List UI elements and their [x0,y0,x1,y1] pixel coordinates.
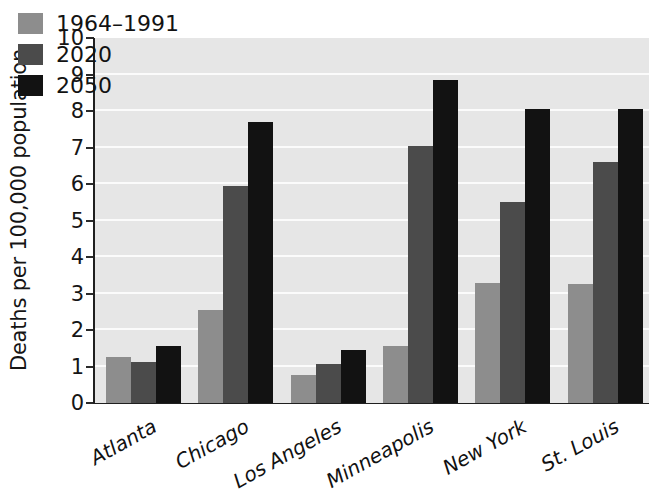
bar [475,283,500,403]
bar-group [372,38,464,403]
legend-item: 1964–1991 [18,8,238,39]
bar [198,310,223,403]
y-axis-tick-label: 8 [38,101,84,122]
x-axis-tick-label: Atlanta [86,414,161,470]
bar [500,202,525,403]
legend-swatch [18,75,43,96]
chart-legend: 1964–199120202050 [18,8,238,101]
bar [433,80,458,403]
bar [156,346,181,403]
bar [618,109,643,403]
legend-label: 2050 [56,75,112,97]
y-axis-tick-label: 3 [38,283,84,304]
bar-group [464,38,556,403]
x-axis-tick-label: St. Louis [537,414,623,476]
legend-item: 2020 [18,39,238,70]
y-axis-tick-label: 1 [38,356,84,377]
x-axis-tick-labels: AtlantaChicagoLos AngelesMinneapolisNew … [95,404,649,501]
legend-item: 2050 [18,70,238,101]
x-axis-tick-label: New York [438,414,530,480]
legend-swatch [18,44,43,65]
legend-label: 1964–1991 [56,13,179,35]
chart-figure: Deaths per 100,000 population 0123456789… [0,0,651,501]
bar [291,375,316,403]
bar [106,357,131,403]
bar [568,284,593,403]
y-axis-tick-label: 6 [38,174,84,195]
y-axis-tick-label: 4 [38,247,84,268]
bar-group [280,38,372,403]
bar [383,346,408,403]
bar [131,362,156,403]
y-axis-tick-label: 0 [38,393,84,414]
y-axis-tick-label: 5 [38,210,84,231]
bar [593,162,618,403]
bar [525,109,550,403]
bar-group [557,38,649,403]
legend-label: 2020 [56,44,112,66]
bar [341,350,366,403]
bar [223,186,248,403]
y-axis-tick-label: 7 [38,137,84,158]
y-axis-tick-label: 2 [38,320,84,341]
bar [408,146,433,403]
bar [248,122,273,403]
legend-swatch [18,13,43,34]
bar [316,364,341,403]
